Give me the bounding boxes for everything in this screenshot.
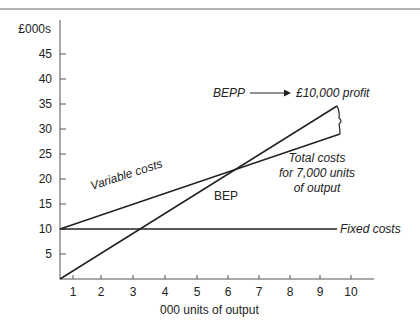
break-even-chart: 45 40 35 30 25 20 15 10 5 £000s 1 2 3 4 … xyxy=(0,0,420,329)
x-tick-label: 8 xyxy=(287,285,294,299)
x-tick-label: 5 xyxy=(194,285,201,299)
total-costs-note-line1: Total costs xyxy=(289,151,346,165)
y-tick-label: 40 xyxy=(39,72,53,86)
x-ticks xyxy=(73,275,351,279)
x-tick-label: 1 xyxy=(70,285,77,299)
arrow-right-icon xyxy=(284,90,291,97)
x-tick-label: 6 xyxy=(225,285,232,299)
y-tick-label: 20 xyxy=(39,172,53,186)
bepp-label: BEPP xyxy=(213,86,245,100)
y-tick-label: 45 xyxy=(39,47,53,61)
y-tick-label: 35 xyxy=(39,97,53,111)
x-tick-labels: 1 2 3 4 5 6 7 8 9 10 xyxy=(70,285,358,299)
bep-label: BEP xyxy=(214,189,238,203)
profit-bracket xyxy=(337,106,341,134)
x-tick-label: 4 xyxy=(162,285,169,299)
y-axis-unit: £000s xyxy=(18,22,51,36)
y-tick-label: 10 xyxy=(39,222,53,236)
y-ticks xyxy=(60,54,66,254)
total-costs-note: Total costs for 7,000 units of output xyxy=(279,151,355,195)
fixed-costs-label: Fixed costs xyxy=(340,222,401,236)
y-tick-label: 30 xyxy=(39,122,53,136)
total-costs-note-line2: for 7,000 units xyxy=(279,166,355,180)
y-tick-label: 25 xyxy=(39,147,53,161)
x-tick-label: 9 xyxy=(317,285,324,299)
x-tick-label: 3 xyxy=(130,285,137,299)
variable-costs-label: Variable costs xyxy=(89,156,165,192)
profit-label: £10,000 profit xyxy=(295,86,370,100)
y-tick-label: 15 xyxy=(39,197,53,211)
total-costs-note-line3: of output xyxy=(294,181,341,195)
x-tick-label: 10 xyxy=(344,285,358,299)
x-tick-label: 7 xyxy=(256,285,263,299)
y-tick-label: 5 xyxy=(45,247,52,261)
x-tick-label: 2 xyxy=(98,285,105,299)
y-tick-labels: 45 40 35 30 25 20 15 10 5 xyxy=(39,47,53,261)
x-axis-title: 000 units of output xyxy=(160,303,259,317)
